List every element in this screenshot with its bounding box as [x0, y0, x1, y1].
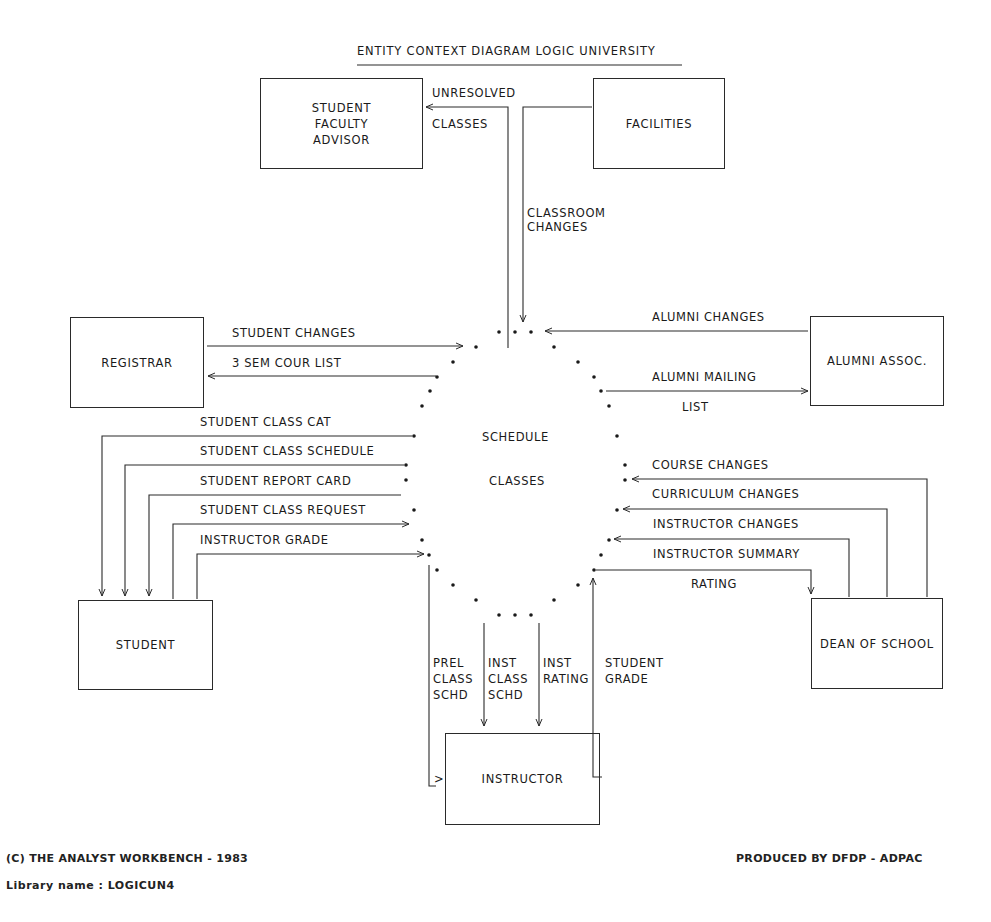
- flow-course-changes: COURSE CHANGES: [652, 458, 769, 472]
- flow-student-report-card: STUDENT REPORT CARD: [200, 474, 351, 488]
- flow-prel-class-schd-arrowhead: >: [434, 772, 444, 786]
- copyright-text: (C) THE ANALYST WORKBENCH - 1983: [6, 852, 248, 866]
- entity-label: STUDENT FACULTY ADVISOR: [312, 100, 371, 148]
- entity-label: ALUMNI ASSOC.: [827, 353, 927, 369]
- flow-3-sem-cour-list: 3 SEM COUR LIST: [232, 356, 341, 370]
- flow-student-class-cat: STUDENT CLASS CAT: [200, 415, 331, 429]
- produced-by-text: PRODUCED BY DFDP - ADPAC: [736, 852, 923, 866]
- entity-label: INSTRUCTOR: [482, 771, 564, 787]
- flow-unresolved-classes: UNRESOLVED: [432, 86, 516, 100]
- flow-classroom-changes: CLASSROOM CHANGES: [527, 206, 606, 234]
- entity-instructor[interactable]: INSTRUCTOR: [445, 733, 600, 825]
- flow-prel-class-schd: PREL CLASS SCHD: [433, 655, 473, 703]
- process-label-line2: CLASSES: [489, 474, 545, 488]
- flow-student-changes: STUDENT CHANGES: [232, 326, 356, 340]
- flow-instructor-summary: INSTRUCTOR SUMMARY: [653, 547, 800, 561]
- flow-alumni-mailing-list: LIST: [682, 400, 709, 414]
- flow-student-class-schedule: STUDENT CLASS SCHEDULE: [200, 444, 374, 458]
- context-diagram: ENTITY CONTEXT DIAGRAM LOGIC UNIVERSITY …: [0, 0, 991, 922]
- flow-curriculum-changes: CURRICULUM CHANGES: [652, 487, 800, 501]
- flow-inst-class-schd: INST CLASS SCHD: [488, 655, 528, 703]
- entity-registrar[interactable]: REGISTRAR: [70, 317, 204, 408]
- flow-alumni-changes: ALUMNI CHANGES: [652, 310, 765, 324]
- entity-student[interactable]: STUDENT: [78, 600, 213, 690]
- entity-student-faculty-advisor[interactable]: STUDENT FACULTY ADVISOR: [260, 78, 423, 169]
- entity-label: FACILITIES: [626, 116, 692, 132]
- entity-label: DEAN OF SCHOOL: [820, 636, 934, 652]
- flow-instructor-changes: INSTRUCTOR CHANGES: [653, 517, 799, 531]
- flow-instructor-grade: INSTRUCTOR GRADE: [200, 533, 329, 547]
- process-label-line1: SCHEDULE: [482, 430, 549, 444]
- library-name-text: Library name : LOGICUN4: [6, 879, 175, 893]
- entity-label: REGISTRAR: [101, 355, 173, 371]
- flow-instructor-summary-rating: RATING: [691, 577, 737, 591]
- flow-student-grade: STUDENT GRADE: [605, 655, 664, 687]
- diagram-title: ENTITY CONTEXT DIAGRAM LOGIC UNIVERSITY: [357, 44, 656, 58]
- entity-label: STUDENT: [116, 637, 175, 653]
- entity-alumni-assoc[interactable]: ALUMNI ASSOC.: [810, 316, 944, 406]
- entity-facilities[interactable]: FACILITIES: [593, 78, 725, 169]
- flow-student-class-request: STUDENT CLASS REQUEST: [200, 503, 366, 517]
- flow-alumni-mailing: ALUMNI MAILING: [652, 370, 757, 384]
- flow-unresolved-classes-2: CLASSES: [432, 117, 488, 131]
- entity-dean-of-school[interactable]: DEAN OF SCHOOL: [811, 598, 943, 689]
- flow-inst-rating: INST RATING: [543, 655, 589, 687]
